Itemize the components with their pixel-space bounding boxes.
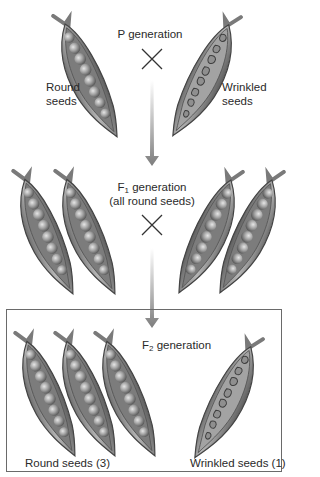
wrinkled-seeds-label: Wrinkled seeds xyxy=(222,80,267,108)
down-arrow-icon xyxy=(145,80,159,166)
wrinkled-seed-pod-p xyxy=(157,3,254,149)
p-generation-label: P generation xyxy=(110,27,190,41)
f1-generation-label: F1 generation (all round seeds) xyxy=(100,180,204,208)
wrinkled-seeds-count-label: Wrinkled seeds (1) xyxy=(190,456,286,470)
pea-pod-round-icon xyxy=(39,3,132,149)
pea-pod-wrinkled-icon xyxy=(157,3,254,149)
round-seeds-label: Round seeds xyxy=(46,80,80,108)
cross-icon xyxy=(141,214,163,236)
round-seeds-count-label: Round seeds (3) xyxy=(25,456,110,470)
round-seed-pod-p xyxy=(39,3,132,149)
f2-generation-label: F2 generation xyxy=(142,338,211,352)
cross-icon xyxy=(141,48,163,70)
